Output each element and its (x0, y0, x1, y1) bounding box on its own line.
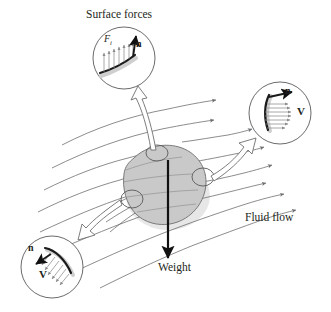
fluid-flow-diagram: Surface forces Fluid flow Weight Fi n n … (0, 0, 331, 312)
velocity-symbol-bottom-left-label: V (39, 269, 47, 280)
callout-surface-forces (93, 27, 155, 89)
normal-symbol-top-label: n (136, 39, 142, 49)
force-symbol-label: Fi (104, 34, 112, 47)
leader-arrow-top (131, 86, 156, 150)
force-symbol-subscript: i (110, 39, 112, 46)
surface-forces-label: Surface forces (86, 9, 152, 21)
velocity-symbol-right-label: V (297, 106, 305, 117)
normal-symbol-right-label: n (285, 86, 291, 96)
normal-symbol-bottom-left-label: n (28, 243, 34, 253)
leader-arrow-right (211, 138, 256, 181)
fluid-flow-label: Fluid flow (245, 212, 293, 224)
weight-label: Weight (158, 262, 191, 274)
